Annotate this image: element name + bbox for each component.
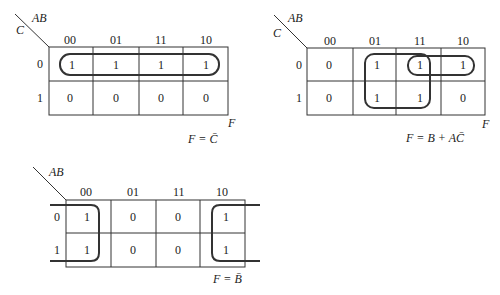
kmap-2-labels: AB C 00 01 11 10 0 1 0 1 1 1 0 1 1 0 F [273,11,490,131]
svg-text:1: 1 [203,58,209,72]
svg-text:10: 10 [457,34,469,48]
svg-text:1: 1 [54,243,60,257]
svg-text:10: 10 [200,33,212,47]
svg-text:F: F [481,117,490,131]
output-label: F [227,116,236,130]
column-variable-label: AB [31,11,47,25]
svg-text:1: 1 [113,58,119,72]
equation-map-2: F = B + AC̄ [406,131,464,146]
kmap-1 [15,14,228,115]
svg-text:00: 00 [64,33,76,47]
kmap-3-labels: AB 00 01 11 10 0 1 1 0 0 1 1 0 0 1 [48,165,229,257]
svg-text:10: 10 [216,185,228,199]
svg-text:0: 0 [113,91,119,105]
svg-text:0: 0 [326,58,332,72]
svg-text:1: 1 [37,91,43,105]
equation-map-3: F = B̄ [213,272,242,287]
svg-text:1: 1 [374,91,380,105]
svg-text:0: 0 [296,58,302,72]
svg-text:0: 0 [158,91,164,105]
svg-text:11: 11 [414,34,426,48]
equation-map-1: F = C̄ [188,132,217,147]
svg-text:0: 0 [130,210,136,224]
svg-text:00: 00 [80,185,92,199]
svg-text:0: 0 [37,57,43,71]
svg-text:01: 01 [110,33,122,47]
svg-text:0: 0 [54,210,60,224]
svg-text:1: 1 [223,243,229,257]
svg-text:AB: AB [48,165,64,179]
svg-text:1: 1 [158,58,164,72]
svg-text:1: 1 [460,58,466,72]
svg-text:11: 11 [155,33,167,47]
svg-text:1: 1 [84,243,90,257]
svg-text:0: 0 [203,91,209,105]
svg-text:0: 0 [67,91,73,105]
row-variable-label: C [16,23,25,37]
svg-text:0: 0 [175,210,181,224]
svg-text:1: 1 [296,91,302,105]
svg-text:AB: AB [287,11,303,25]
svg-text:C: C [273,26,282,40]
svg-text:1: 1 [69,58,75,72]
svg-text:01: 01 [369,34,381,48]
svg-text:1: 1 [84,210,90,224]
svg-text:11: 11 [173,185,185,199]
svg-text:1: 1 [374,58,380,72]
svg-text:0: 0 [326,91,332,105]
svg-text:1: 1 [223,210,229,224]
svg-text:1: 1 [417,58,423,72]
svg-text:1: 1 [417,91,423,105]
svg-text:00: 00 [324,34,336,48]
svg-text:0: 0 [130,243,136,257]
karnaugh-maps-figure: AB C 00 01 11 10 0 1 1 1 1 1 0 0 0 0 F A… [0,0,500,295]
svg-text:01: 01 [127,185,139,199]
svg-text:0: 0 [460,91,466,105]
svg-text:0: 0 [175,243,181,257]
